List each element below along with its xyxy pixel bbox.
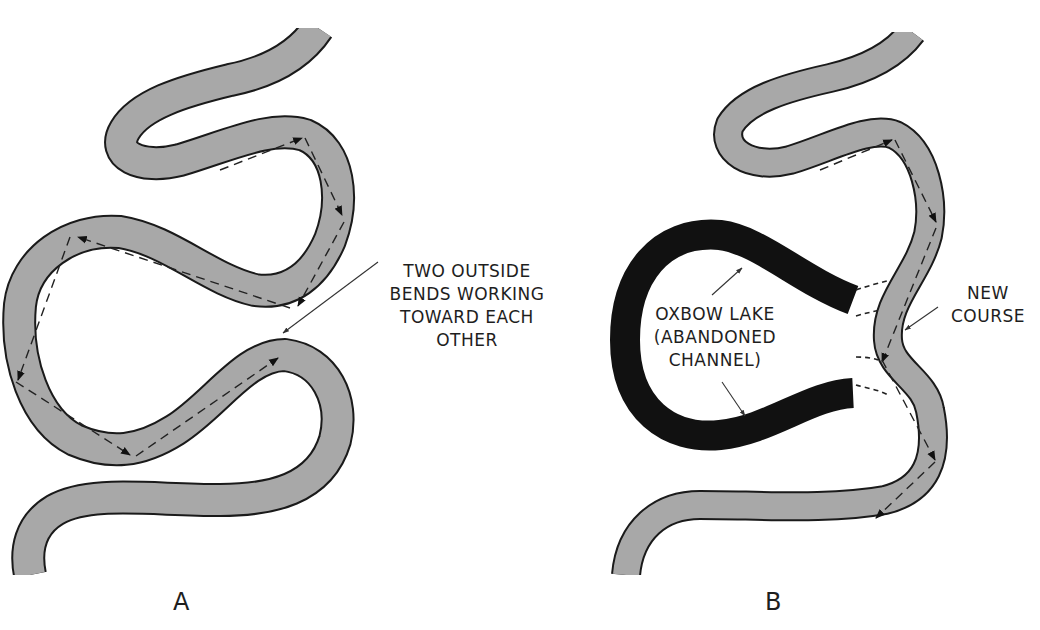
panel-label-b: B: [765, 588, 781, 616]
annotation-oxbow-lake: OXBOW LAKE (ABANDONED CHANNEL): [640, 303, 790, 372]
panel-label-a: A: [173, 588, 189, 616]
panel-a-river: [10, 16, 338, 587]
annotation-outside-bends: TWO OUTSIDE BENDS WORKING TOWARD EACH OT…: [372, 260, 562, 352]
leader-arrow-icon: [905, 307, 938, 330]
leader-arrow-icon: [722, 382, 745, 416]
leader-arrow-icon: [712, 268, 742, 295]
annotation-new-course: NEW COURSE: [948, 282, 1028, 328]
